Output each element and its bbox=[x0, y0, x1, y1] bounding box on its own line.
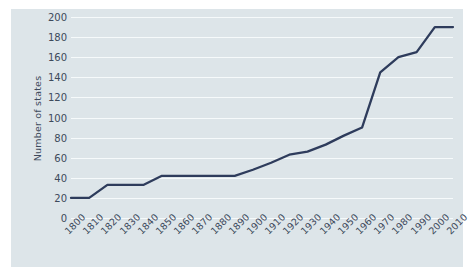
chart-plot-panel: Number of states 02040608010012014016018… bbox=[11, 9, 463, 267]
y-tick-label: 200 bbox=[33, 12, 67, 23]
y-axis-tick-labels: 020406080100120140160180200 bbox=[33, 12, 67, 218]
plot-area bbox=[71, 12, 453, 218]
y-tick-label: 140 bbox=[33, 72, 67, 83]
chart-figure: Number of states 02040608010012014016018… bbox=[0, 0, 475, 276]
y-tick-label: 160 bbox=[33, 52, 67, 63]
y-tick-label: 40 bbox=[33, 172, 67, 183]
y-tick-label: 100 bbox=[33, 112, 67, 123]
y-tick-label: 180 bbox=[33, 32, 67, 43]
y-tick-label: 80 bbox=[33, 132, 67, 143]
y-tick-label: 0 bbox=[33, 213, 67, 224]
y-tick-label: 120 bbox=[33, 92, 67, 103]
x-axis-tick-labels: 1800181018201830184018501860187018801890… bbox=[71, 218, 453, 264]
data-polyline bbox=[71, 27, 453, 198]
y-tick-label: 60 bbox=[33, 152, 67, 163]
data-line-series bbox=[71, 12, 453, 218]
y-tick-label: 20 bbox=[33, 192, 67, 203]
